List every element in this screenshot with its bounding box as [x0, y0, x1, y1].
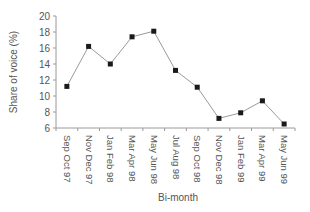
- x-tick-label: May Jun 99: [279, 135, 290, 184]
- data-series: [64, 29, 286, 127]
- y-axis-label: Share of voice (%): [8, 31, 19, 113]
- data-point-marker: [130, 34, 135, 39]
- x-tick-label: Mar Apr 98: [127, 135, 138, 181]
- x-axis-label: Bi-month: [158, 192, 198, 203]
- x-tick-label: Mar Apr 99: [257, 135, 268, 181]
- data-point-marker: [64, 84, 69, 89]
- data-point-marker: [195, 85, 200, 90]
- x-tick-label: Jul Aug 98: [171, 135, 182, 179]
- data-point-marker: [216, 116, 221, 121]
- data-point-marker: [260, 98, 265, 103]
- x-tick-label: Nov Dec 97: [84, 135, 95, 185]
- line-chart: 68101214161820 Sep Oct 97Nov Dec 97Jan F…: [0, 0, 310, 212]
- x-tick-label: May Jun 98: [149, 135, 160, 184]
- x-tick-label: Nov Dec 98: [214, 135, 225, 185]
- data-point-marker: [282, 122, 287, 127]
- y-tick-label: 8: [44, 107, 50, 118]
- x-tick-label: Jan Feb 98: [105, 135, 116, 183]
- data-point-marker: [173, 68, 178, 73]
- y-tick-label: 14: [39, 59, 51, 70]
- y-axis: 68101214161820: [39, 11, 56, 134]
- data-point-marker: [86, 44, 91, 49]
- x-tick-label: Sep Oct 97: [62, 135, 73, 183]
- y-tick-label: 16: [39, 43, 51, 54]
- x-tick-label: Sep Oct 98: [192, 135, 203, 183]
- y-tick-label: 6: [44, 123, 50, 134]
- y-tick-label: 20: [39, 11, 51, 22]
- x-tick-label: Jan Feb 99: [236, 135, 247, 183]
- data-point-marker: [108, 62, 113, 67]
- y-tick-label: 10: [39, 91, 51, 102]
- x-axis: Sep Oct 97Nov Dec 97Jan Feb 98Mar Apr 98…: [56, 128, 295, 185]
- y-tick-label: 18: [39, 27, 51, 38]
- y-tick-label: 12: [39, 75, 51, 86]
- data-point-marker: [151, 29, 156, 34]
- series-line: [67, 31, 284, 124]
- data-point-marker: [238, 110, 243, 115]
